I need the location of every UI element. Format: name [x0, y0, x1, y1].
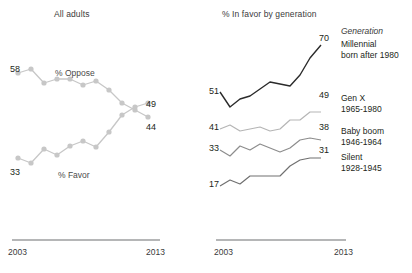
legend-silent-name: Silent — [341, 152, 382, 163]
left-chart-plot — [0, 0, 206, 273]
genx-end-value: 49 — [319, 90, 329, 100]
left-favor-end-value: 49 — [146, 99, 156, 109]
series-genx — [220, 112, 321, 131]
legend-item-genx: Gen X 1965-1980 — [341, 93, 382, 114]
legend-babyboom-years: 1946-1964 — [341, 137, 384, 148]
right-axis-end-label: 2013 — [334, 247, 353, 257]
millennial-end-value: 70 — [319, 33, 329, 43]
left-oppose-end-value: 44 — [146, 122, 156, 132]
right-chart-panel: % In favor by generation Generation 51 7… — [206, 0, 412, 273]
series-millennial — [220, 45, 321, 107]
legend-item-babyboom: Baby boom 1946-1964 — [341, 126, 384, 147]
legend-silent-years: 1928-1945 — [341, 163, 382, 174]
legend-genx-name: Gen X — [341, 93, 382, 104]
left-axis-start-label: 2003 — [8, 247, 27, 257]
series-silent — [220, 158, 321, 186]
legend-millennial-years: born after 1980 — [341, 50, 399, 61]
babyboom-end-value: 38 — [319, 122, 329, 132]
silent-end-value: 31 — [319, 145, 329, 155]
left-axis-end-label: 2013 — [146, 247, 165, 257]
genx-start-value: 41 — [209, 122, 219, 132]
silent-start-value: 17 — [209, 179, 219, 189]
babyboom-start-value: 33 — [209, 143, 219, 153]
legend-item-silent: Silent 1928-1945 — [341, 152, 382, 173]
millennial-start-value: 51 — [209, 86, 219, 96]
left-oppose-series-label: % Oppose — [55, 68, 95, 78]
series-babyboom — [220, 138, 321, 156]
left-favor-series-label: % Favor — [58, 170, 90, 180]
left-oppose-start-value: 58 — [10, 64, 20, 74]
legend-genx-years: 1965-1980 — [341, 104, 382, 115]
right-axis-start-label: 2003 — [214, 247, 233, 257]
left-favor-start-value: 33 — [10, 167, 20, 177]
series-favor — [15, 100, 150, 165]
legend-babyboom-name: Baby boom — [341, 126, 384, 137]
legend-millennial-name: Millennial — [341, 39, 399, 50]
left-chart-panel: All adults — [0, 0, 206, 273]
legend-item-millennial: Millennial born after 1980 — [341, 39, 399, 60]
